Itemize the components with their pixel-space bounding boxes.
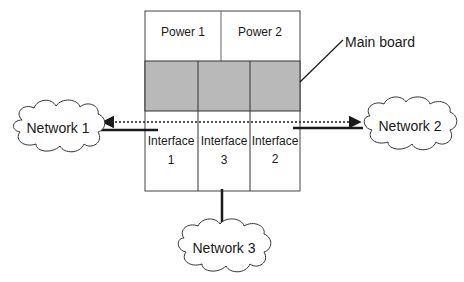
power-2-label: Power 2 — [238, 25, 282, 39]
interface-2-label: Interface — [252, 134, 299, 148]
interface-1-number: 1 — [168, 153, 175, 167]
network-2-label: Network 2 — [378, 118, 441, 134]
network-3-label: Network 3 — [192, 240, 255, 256]
power-1-label: Power 1 — [161, 25, 205, 39]
interface-1-label: Interface — [148, 134, 195, 148]
interface-2-number: 2 — [272, 152, 279, 166]
main-board-label: Main board — [345, 34, 415, 50]
main-board — [145, 61, 300, 111]
diagram-canvas: Power 1 Power 2 Interface 1 Interface 3 … — [0, 0, 464, 282]
main-board-leader-line — [300, 40, 343, 82]
interface-3-number: 3 — [221, 153, 228, 167]
network-1-label: Network 1 — [26, 120, 89, 136]
interface-3-label: Interface — [201, 134, 248, 148]
